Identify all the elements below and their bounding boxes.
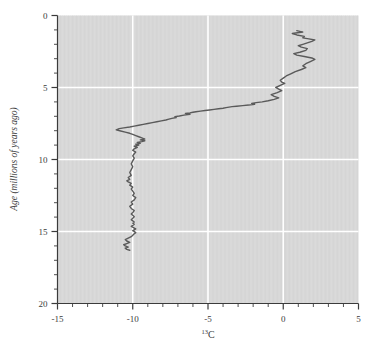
x-tick-label: -15	[52, 314, 64, 324]
x-tick-label: 5	[356, 314, 361, 324]
y-tick-label: 0	[43, 11, 48, 21]
x-axis-label-base: C	[208, 329, 215, 340]
y-tick-label: 10	[39, 155, 49, 165]
y-axis-label: Age (millions of years ago)	[9, 107, 20, 211]
y-tick-label: 15	[39, 227, 49, 237]
x-tick-label: 0	[281, 314, 286, 324]
y-tick-label: 5	[43, 83, 48, 93]
chart-figure: -15-10-505 05101520 Age (millions of yea…	[0, 0, 376, 351]
y-tick-label: 20	[39, 299, 49, 309]
x-tick-label: -5	[204, 314, 212, 324]
d13c-age-line-chart: -15-10-505 05101520 Age (millions of yea…	[0, 0, 376, 351]
x-tick-label: -10	[127, 314, 139, 324]
